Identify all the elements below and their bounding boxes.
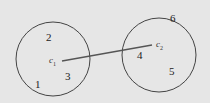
cluster-2-circle xyxy=(122,18,196,92)
centroid-c2-label: c2 xyxy=(156,40,163,51)
point-label-1: 1 xyxy=(35,79,41,90)
point-label-3: 3 xyxy=(65,71,71,82)
point-label-6: 6 xyxy=(170,13,176,24)
point-label-2: 2 xyxy=(46,32,52,43)
point-label-5: 5 xyxy=(169,66,175,77)
point-label-4: 4 xyxy=(137,50,143,61)
diagram-shapes xyxy=(0,0,210,103)
cluster-diagram: 2 3 1 c1 6 4 5 c2 xyxy=(0,0,210,103)
centroid-c1-label: c1 xyxy=(49,56,56,67)
